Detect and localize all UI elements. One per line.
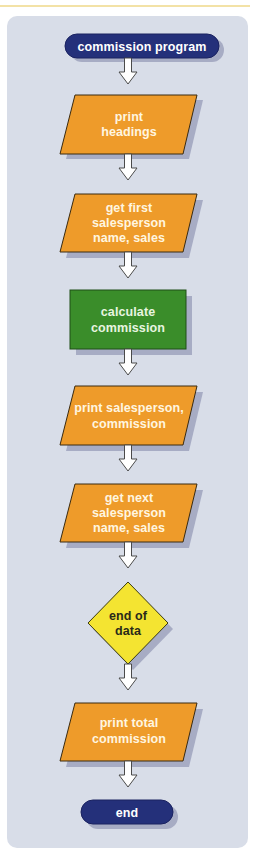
- svg-text:print: print: [115, 110, 144, 124]
- svg-text:commission: commission: [92, 732, 166, 746]
- svg-text:name, sales: name, sales: [93, 521, 165, 535]
- svg-text:end of: end of: [109, 609, 148, 623]
- svg-text:commission: commission: [92, 417, 166, 431]
- io-print-total-commission: print total commission: [60, 703, 203, 767]
- io-get-next-salesperson: get next salesperson name, sales: [60, 484, 203, 548]
- svg-text:data: data: [115, 624, 142, 638]
- io-print-salesperson-commission: print salesperson, commission: [60, 386, 203, 451]
- start-terminal: commission program: [65, 34, 224, 62]
- io-print-headings: print headings: [60, 95, 203, 159]
- svg-text:salesperson: salesperson: [92, 216, 166, 230]
- flowchart: commission program print headings get fi…: [0, 0, 260, 867]
- svg-text:name, sales: name, sales: [93, 231, 165, 245]
- start-label: commission program: [78, 40, 207, 54]
- svg-text:headings: headings: [101, 125, 157, 139]
- svg-text:get first: get first: [106, 201, 153, 215]
- io-get-first-salesperson: get first salesperson name, sales: [60, 194, 203, 258]
- svg-text:print total: print total: [100, 716, 159, 730]
- svg-text:calculate: calculate: [101, 305, 155, 319]
- decision-end-of-data: end of data: [88, 582, 173, 670]
- end-label: end: [116, 806, 139, 820]
- svg-text:print salesperson,: print salesperson,: [74, 401, 183, 415]
- svg-text:commission: commission: [91, 321, 165, 335]
- process-calculate-commission: calculate commission: [70, 290, 192, 355]
- svg-text:get next: get next: [105, 491, 154, 505]
- end-terminal: end: [81, 800, 178, 829]
- svg-text:salesperson: salesperson: [92, 506, 166, 520]
